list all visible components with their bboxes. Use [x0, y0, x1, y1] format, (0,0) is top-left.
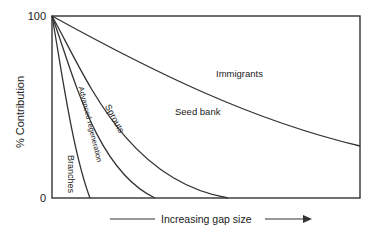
label-advanced-regeneration: Advanced regeneration	[77, 86, 104, 163]
arrow-right-icon	[303, 215, 312, 223]
curve-seed-bank	[52, 16, 360, 146]
label-seed-bank: Seed bank	[175, 106, 221, 117]
label-branches: Branches	[66, 155, 76, 194]
y-axis-label: % Contribution	[14, 76, 26, 148]
label-immigrants: Immigrants	[216, 68, 263, 79]
y-tick-0: 0	[40, 192, 46, 204]
y-tick-100: 100	[28, 10, 46, 22]
x-axis-label: Increasing gap size	[161, 213, 252, 225]
label-sprouts: Sprouts	[103, 103, 127, 136]
chart: 100 0 % Contribution Branches Advanced r…	[0, 0, 374, 236]
